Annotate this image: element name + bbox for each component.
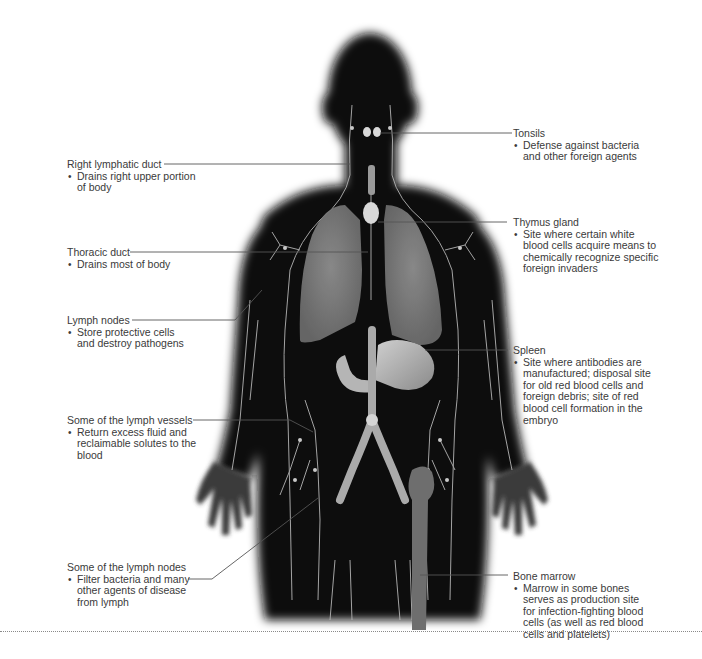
label-desc: Site where certain white blood cells acq…	[513, 229, 663, 275]
label-some-lymph-nodes: Some of the lymph nodes Filter bacteria …	[67, 562, 197, 608]
label-title: Tonsils	[513, 128, 653, 140]
label-title: Spleen	[513, 345, 655, 357]
label-lymph-vessels: Some of the lymph vessels Return excess …	[67, 415, 197, 461]
label-spleen: Spleen Site where antibodies are manufac…	[513, 345, 655, 426]
trachea	[368, 165, 375, 195]
dotted-divider	[0, 631, 702, 632]
label-desc: Store protective cells and destroy patho…	[67, 327, 192, 350]
label-title: Some of the lymph vessels	[67, 415, 197, 427]
label-title: Thoracic duct	[67, 247, 207, 259]
thymus-organ	[363, 202, 379, 224]
cisterna	[366, 414, 378, 426]
label-desc: Site where antibodies are manufactured; …	[513, 357, 655, 427]
label-desc: Defense against bacteria and other forei…	[513, 140, 653, 163]
label-title: Bone marrow	[513, 571, 648, 583]
label-title: Thymus gland	[513, 217, 663, 229]
label-title: Some of the lymph nodes	[67, 562, 197, 574]
label-thymus-gland: Thymus gland Site where certain white bl…	[513, 217, 663, 275]
label-title: Right lymphatic duct	[67, 159, 207, 171]
label-desc: Return excess fluid and reclaimable solu…	[67, 427, 197, 462]
label-tonsils: Tonsils Defense against bacteria and oth…	[513, 128, 653, 163]
label-desc: Drains most of body	[67, 259, 207, 271]
label-desc: Drains right upper portion of body	[67, 171, 207, 194]
label-desc: Filter bacteria and many other agents of…	[67, 574, 197, 609]
label-thoracic-duct: Thoracic duct Drains most of body	[67, 247, 207, 270]
label-lymph-nodes: Lymph nodes Store protective cells and d…	[67, 315, 192, 350]
label-title: Lymph nodes	[67, 315, 192, 327]
label-right-lymphatic-duct: Right lymphatic duct Drains right upper …	[67, 159, 207, 194]
